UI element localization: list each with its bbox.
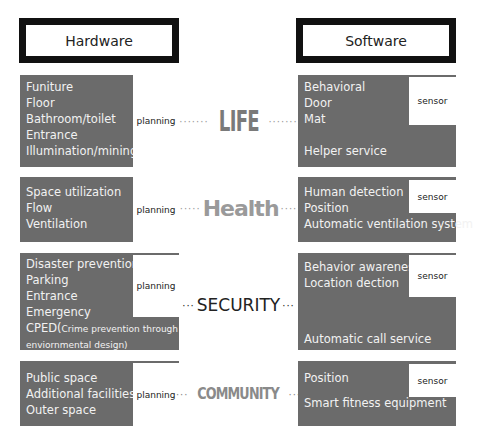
category-community: COMMUNITY <box>198 385 280 403</box>
health-software-item: Automatic ventilation system <box>304 216 456 232</box>
dotted-connector-right: ···· <box>281 203 298 214</box>
dotted-connector-right: ······· <box>268 116 297 127</box>
community-hardware-box: Public space Additional facilities Outer… <box>20 361 179 426</box>
community-software-item: Smart fitness equipment <box>304 395 456 411</box>
security-connector: ··· SECURITY ··· <box>179 290 298 320</box>
security-hardware-box: Disaster prevention Parking Entrance Eme… <box>20 253 179 350</box>
planning-label: planning <box>136 202 175 218</box>
health-hardware-box: Space utilization Flow Ventilation plann… <box>20 177 179 242</box>
category-security: SECURITY <box>197 295 280 315</box>
health-connector: ····· Health ···· <box>179 190 298 226</box>
community-software-box: Position Smart fitness equipment sensor <box>298 361 456 426</box>
sensor-label: sensor <box>418 373 448 389</box>
cped-desc-line2: enviornmental design) <box>26 337 179 353</box>
health-planning-tag: planning <box>133 177 179 242</box>
category-health: Health <box>203 196 279 221</box>
hardware-header: Hardware <box>19 18 179 63</box>
hardware-header-label: Hardware <box>65 33 133 49</box>
cped-desc: Crime prevention through <box>62 324 178 334</box>
spacer <box>304 127 456 137</box>
life-software-item: Helper service <box>304 143 456 159</box>
cped-item: CPED(Crime prevention through <box>26 320 179 337</box>
planning-label: planning <box>136 387 175 403</box>
life-hardware-box: Funiture Floor Bathroom/toilet Entrance … <box>20 75 179 167</box>
health-software-box: Human detection Position Automatic venti… <box>298 177 456 242</box>
security-software-item: Automatic call service <box>304 331 456 347</box>
software-header-label: Software <box>345 33 407 49</box>
cped-abbr: CPED( <box>26 321 62 335</box>
community-sensor-tag: sensor <box>409 364 456 397</box>
dotted-connector-left: ··· <box>176 389 189 400</box>
life-connector: ······· LIFE ······· <box>179 100 298 142</box>
security-software-box: Behavior awareness Location dection Auto… <box>298 253 456 350</box>
security-planning-tag: planning <box>133 255 179 317</box>
life-sensor-tag: sensor <box>409 77 456 125</box>
dotted-connector-right: ··· <box>282 300 295 311</box>
software-header: Software <box>296 18 456 63</box>
life-software-box: Behavioral Door Mat Helper service senso… <box>298 75 456 167</box>
planning-label: planning <box>136 278 175 294</box>
dotted-connector-left: ····· <box>180 203 201 214</box>
dotted-connector-left: ······· <box>179 116 208 127</box>
health-sensor-tag: sensor <box>409 180 456 213</box>
life-planning-tag: planning <box>133 75 179 167</box>
security-sensor-tag: sensor <box>409 255 456 297</box>
sensor-label: sensor <box>418 189 448 205</box>
category-life: LIFE <box>218 105 258 138</box>
sensor-label: sensor <box>418 268 448 284</box>
community-planning-tag: planning <box>133 363 179 426</box>
planning-label: planning <box>136 113 175 129</box>
sensor-label: sensor <box>418 93 448 109</box>
community-connector: ··· COMMUNITY ··· <box>179 380 298 408</box>
dotted-connector-left: ··· <box>182 300 195 311</box>
